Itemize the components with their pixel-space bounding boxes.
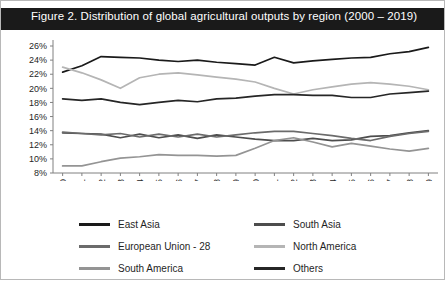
figure-container: Figure 2. Distribution of global agricul… [0,0,445,280]
y-axis-tick-label: 24% [29,55,47,65]
series-line [63,47,429,72]
chart-legend: East AsiaSouth AsiaEuropean Union - 28No… [1,213,446,279]
x-axis: 2000200120022003200420052006200720082009… [53,173,438,181]
legend-label: European Union - 28 [118,241,210,252]
x-axis-tick-label: 2011 [270,179,280,181]
legend-item[interactable]: South America [79,257,254,279]
x-axis-tick-label: 2018 [405,179,415,181]
y-axis-tick-label: 22% [29,69,47,79]
x-axis-tick-label: 2004 [135,179,145,181]
x-axis-tick-label: 2014 [328,179,338,181]
legend-item[interactable]: South Asia [254,213,429,235]
legend-swatch-icon [254,267,285,270]
legend-item[interactable]: North America [254,235,429,257]
legend-label: Others [293,263,323,274]
series-line [63,138,429,166]
x-axis-tick-label: 2009 [231,179,241,181]
x-axis-tick-label: 2001 [77,179,87,181]
x-axis-tick-label: 2008 [212,179,222,181]
legend-label: South Asia [293,219,341,230]
x-axis-tick-label: 2006 [174,179,184,181]
line-chart: 8%10%12%14%16%18%20%22%24%26% 2000200120… [1,33,446,181]
x-axis-tick-label: 2017 [385,179,395,181]
x-axis-tick-label: 2000 [58,179,68,181]
legend-swatch-icon [79,245,110,248]
y-axis-tick-label: 16% [29,112,47,122]
chart-plot-area: 8%10%12%14%16%18%20%22%24%26% 2000200120… [1,33,446,181]
y-axis-tick-label: 8% [34,168,47,178]
series-lines [63,47,429,166]
legend-swatch-icon [254,223,285,226]
x-axis-tick-label: 2010 [251,179,261,181]
legend-label: South America [118,263,183,274]
figure-title: Figure 2. Distribution of global agricul… [31,10,417,22]
x-axis-tick-label: 2016 [366,179,376,181]
x-axis-tick-label: 2019 [424,179,434,181]
x-axis-tick-label: 2003 [116,179,126,181]
y-axis-tick-label: 10% [29,154,47,164]
x-axis-tick-label: 2012 [289,179,299,181]
x-axis-tick-label: 2002 [97,179,107,181]
legend-swatch-icon [79,267,110,270]
legend-swatch-icon [254,245,285,248]
legend-item[interactable]: East Asia [79,213,254,235]
y-axis-tick-label: 14% [29,126,47,136]
x-axis-tick-label: 2005 [154,179,164,181]
series-line [63,67,429,94]
legend-swatch-icon [79,223,110,226]
y-axis: 8%10%12%14%16%18%20%22%24%26% [29,40,53,178]
x-axis-tick-label: 2015 [347,179,357,181]
y-axis-tick-label: 12% [29,140,47,150]
legend-item[interactable]: European Union - 28 [79,235,254,257]
y-axis-tick-label: 18% [29,98,47,108]
legend-label: North America [293,241,356,252]
y-axis-tick-label: 20% [29,84,47,94]
series-line [63,91,429,104]
x-axis-tick-label: 2013 [308,179,318,181]
y-axis-tick-label: 26% [29,41,47,51]
legend-item[interactable]: Others [254,257,429,279]
x-axis-tick-label: 2007 [193,179,203,181]
legend-label: East Asia [118,219,160,230]
